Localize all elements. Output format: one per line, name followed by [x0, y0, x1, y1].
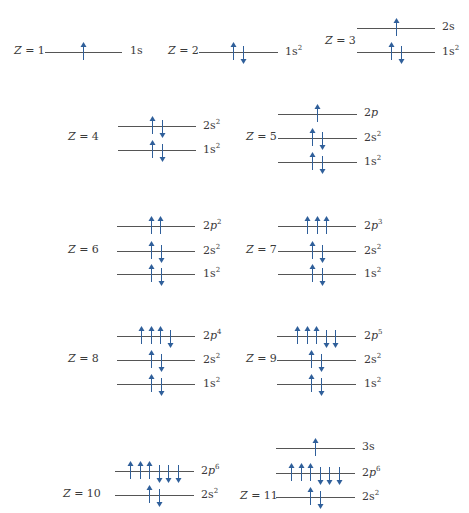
spin-up-arrow-icon [148, 326, 155, 344]
energy-level-line [115, 495, 194, 496]
energy-level-line [278, 251, 356, 252]
orbital-label: 2p [364, 106, 378, 119]
orbital-label: 1s2 [285, 44, 302, 58]
atomic-number-label: Z = 11 [240, 489, 278, 502]
spin-up-arrow-icon [149, 116, 156, 134]
orbital-label: 1s [130, 44, 143, 57]
spin-down-arrow-icon [398, 46, 405, 64]
orbital-label: 2p3 [364, 218, 383, 232]
atomic-number-label: Z = 10 [63, 487, 101, 500]
atomic-number-label: Z = 3 [325, 34, 356, 47]
orbital-label: 2s [442, 20, 455, 33]
spin-up-arrow-icon [309, 128, 316, 146]
spin-down-arrow-icon [165, 465, 172, 483]
spin-up-arrow-icon [323, 216, 330, 234]
orbital-label: 2s2 [203, 352, 220, 366]
orbital-label: 1s2 [364, 376, 381, 390]
energy-level-line [278, 162, 357, 163]
atomic-number-label: Z = 2 [168, 44, 199, 57]
energy-level-line [278, 138, 357, 139]
spin-up-arrow-icon [148, 216, 155, 234]
spin-down-arrow-icon [156, 465, 163, 483]
spin-down-arrow-icon [336, 467, 343, 485]
orbital-label: 1s2 [203, 142, 220, 156]
spin-up-arrow-icon [127, 461, 134, 479]
orbital-label: 2s2 [364, 352, 381, 366]
orbital-label: 2p4 [203, 328, 222, 342]
spin-up-arrow-icon [314, 216, 321, 234]
spin-down-arrow-icon [159, 120, 166, 138]
orbital-label: 2p6 [362, 465, 381, 479]
orbital-label: 1s2 [203, 376, 220, 390]
spin-down-arrow-icon [318, 354, 325, 372]
spin-up-arrow-icon [309, 264, 316, 282]
spin-up-arrow-icon [137, 461, 144, 479]
spin-up-arrow-icon [314, 104, 321, 122]
spin-down-arrow-icon [167, 330, 174, 348]
spin-down-arrow-icon [175, 465, 182, 483]
energy-level-line [117, 274, 195, 275]
energy-level-line [117, 251, 195, 252]
energy-level-line [117, 360, 195, 361]
spin-up-arrow-icon [149, 140, 156, 158]
spin-down-arrow-icon [319, 268, 326, 286]
spin-up-arrow-icon [298, 463, 305, 481]
spin-up-arrow-icon [312, 438, 319, 456]
energy-level-line [277, 360, 356, 361]
spin-down-arrow-icon [158, 245, 165, 263]
spin-up-arrow-icon [388, 42, 395, 60]
spin-down-arrow-icon [158, 354, 165, 372]
orbital-label: 2s2 [364, 243, 381, 257]
atomic-number-label: Z = 1 [14, 44, 45, 57]
spin-down-arrow-icon [317, 491, 324, 509]
spin-down-arrow-icon [158, 268, 165, 286]
spin-up-arrow-icon [146, 485, 153, 503]
spin-down-arrow-icon [317, 467, 324, 485]
orbital-label: 2p2 [203, 218, 222, 232]
spin-down-arrow-icon [319, 245, 326, 263]
spin-down-arrow-icon [156, 489, 163, 507]
spin-up-arrow-icon [80, 42, 87, 60]
orbital-label: 2s2 [203, 118, 220, 132]
spin-up-arrow-icon [288, 463, 295, 481]
energy-level-line [117, 384, 195, 385]
orbital-label: 1s2 [442, 44, 459, 58]
orbital-label: 3s [362, 440, 375, 453]
energy-level-line [199, 52, 278, 53]
spin-up-arrow-icon [313, 326, 320, 344]
spin-up-arrow-icon [148, 374, 155, 392]
energy-level-line [117, 336, 195, 337]
energy-level-line [357, 52, 435, 53]
orbital-label: 2p5 [364, 328, 383, 342]
spin-down-arrow-icon [158, 378, 165, 396]
atomic-number-label: Z = 8 [68, 352, 99, 365]
energy-level-line [276, 497, 355, 498]
spin-up-arrow-icon [309, 152, 316, 170]
orbital-label: 2p6 [201, 463, 220, 477]
spin-up-arrow-icon [230, 42, 237, 60]
spin-up-arrow-icon [146, 461, 153, 479]
spin-up-arrow-icon [393, 18, 400, 36]
orbital-label: 1s2 [364, 266, 381, 280]
energy-level-line [118, 126, 196, 127]
energy-level-line [278, 274, 356, 275]
spin-up-arrow-icon [157, 216, 164, 234]
orbital-label: 2s2 [201, 487, 218, 501]
spin-down-arrow-icon [326, 467, 333, 485]
spin-down-arrow-icon [159, 144, 166, 162]
atomic-number-label: Z = 9 [246, 352, 277, 365]
atomic-number-label: Z = 7 [246, 243, 277, 256]
orbital-label: 2s2 [362, 489, 379, 503]
orbital-label: 2s2 [364, 130, 381, 144]
spin-up-arrow-icon [157, 326, 164, 344]
atomic-number-label: Z = 4 [68, 130, 99, 143]
spin-up-arrow-icon [307, 463, 314, 481]
spin-up-arrow-icon [148, 241, 155, 259]
spin-up-arrow-icon [304, 326, 311, 344]
spin-down-arrow-icon [319, 132, 326, 150]
orbital-label: 1s2 [203, 266, 220, 280]
spin-up-arrow-icon [138, 326, 145, 344]
spin-down-arrow-icon [332, 330, 339, 348]
spin-up-arrow-icon [148, 350, 155, 368]
orbital-label: 2s2 [203, 243, 220, 257]
